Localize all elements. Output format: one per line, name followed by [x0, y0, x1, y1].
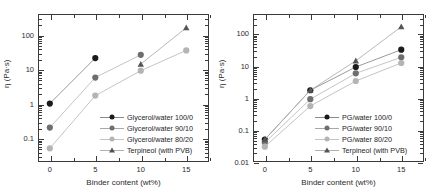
legend-item: PG/water 90/10 [315, 123, 407, 134]
data-point-marker [353, 70, 359, 76]
x-axis-minor-tick [210, 158, 211, 161]
legend-marker-circle-icon [100, 112, 124, 123]
y-axis-tick-label: 10 [8, 65, 34, 74]
x-axis-tick-label: 5 [93, 165, 97, 174]
y-axis-tick-label: 10 [223, 61, 249, 70]
y-axis-tick-label: 100 [8, 30, 34, 39]
x-axis-minor-tick [210, 15, 211, 18]
x-axis-minor-tick [425, 15, 426, 18]
data-point-marker [353, 64, 359, 70]
x-axis-tick-label: 10 [137, 165, 145, 174]
legend-marker-circle-icon [315, 123, 339, 134]
data-point-marker [47, 145, 53, 151]
legend-left: Glycerol/water 100/0 Glycerol/water 90/1… [100, 112, 193, 156]
y-axis-tick-label: 0.1 [223, 125, 249, 134]
data-point-marker [262, 144, 268, 150]
data-point-marker [398, 54, 404, 60]
y-axis-tick-label: 0.01 [223, 158, 249, 167]
legend-item: Glycerol/water 100/0 [100, 112, 193, 123]
data-point-marker [183, 24, 189, 30]
legend-marker-circle-icon [315, 112, 339, 123]
data-point-marker [92, 93, 98, 99]
legend-label: Terpineol (with PVB) [339, 147, 407, 154]
data-point-marker [183, 47, 189, 53]
y-axis-tick-label: 100 [223, 29, 249, 38]
y-axis-tick [254, 163, 259, 164]
legend-label: Glycerol/water 80/20 [124, 136, 193, 143]
legend-item: Glycerol/water 90/10 [100, 123, 193, 134]
x-axis-tick-label: 0 [48, 165, 52, 174]
legend-item: PG/water 100/0 [315, 112, 407, 123]
legend-label: Terpineol (with PVB) [124, 147, 192, 154]
y-axis-tick-label: 1 [223, 93, 249, 102]
legend-label: Glycerol/water 90/10 [124, 125, 193, 132]
y-axis-tick-label: 0.1 [8, 133, 34, 142]
data-point-marker [47, 100, 53, 106]
x-axis-title-left: Binder content (wt%) [38, 178, 209, 187]
x-axis-tick-label: 15 [182, 165, 190, 174]
data-point-marker [307, 96, 313, 102]
data-point-marker [353, 58, 359, 64]
x-axis-tick-label: 5 [308, 165, 312, 174]
series-line [50, 58, 95, 104]
legend-label: Glycerol/water 100/0 [124, 114, 193, 121]
figure-two-panel-viscosity-plots: Binder content (wt%) η (Pa·s) Glycerol/w… [0, 0, 431, 192]
data-point-marker [138, 68, 144, 74]
chart-panel-left: Binder content (wt%) η (Pa·s) Glycerol/w… [0, 0, 216, 192]
legend-marker-triangle-icon [315, 145, 339, 156]
legend-label: PG/water 90/10 [339, 125, 392, 132]
legend-marker-circle-icon [100, 123, 124, 134]
x-axis-tick-label: 15 [397, 165, 405, 174]
data-point-marker [92, 74, 98, 80]
data-point-marker [398, 24, 404, 30]
legend-item: Terpineol (with PVB) [315, 145, 407, 156]
legend-label: PG/water 100/0 [339, 114, 392, 121]
y-axis-tick [418, 163, 423, 164]
data-point-marker [398, 47, 404, 53]
legend-item: PG/water 80/20 [315, 134, 407, 145]
legend-right: PG/water 100/0 PG/water 90/10 PG/water 8… [315, 112, 407, 156]
legend-marker-circle-icon [100, 134, 124, 145]
data-point-marker [47, 124, 53, 130]
chart-panel-right: Binder content (wt%) η (Pa·s) PG/water 1… [215, 0, 431, 192]
legend-label: PG/water 80/20 [339, 136, 392, 143]
legend-marker-triangle-icon [100, 145, 124, 156]
data-point-marker [307, 103, 313, 109]
series-line [141, 28, 186, 64]
legend-item: Glycerol/water 80/20 [100, 134, 193, 145]
x-axis-title-right: Binder content (wt%) [253, 178, 424, 187]
y-axis-tick-label: 1 [8, 99, 34, 108]
legend-marker-circle-icon [315, 134, 339, 145]
x-axis-tick-label: 0 [263, 165, 267, 174]
legend-item: Terpineol (with PVB) [100, 145, 193, 156]
data-point-marker [92, 55, 98, 61]
data-point-marker [398, 60, 404, 66]
x-axis-tick-label: 10 [352, 165, 360, 174]
data-point-marker [353, 78, 359, 84]
x-axis-minor-tick [425, 158, 426, 161]
data-point-marker [138, 52, 144, 58]
